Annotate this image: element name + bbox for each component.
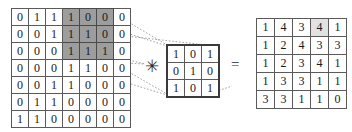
input-matrix-row: 0011000 bbox=[12, 77, 131, 94]
output-matrix-cell: 1 bbox=[257, 55, 275, 73]
input-matrix-cell: 0 bbox=[12, 9, 29, 26]
output-matrix-row: 14341 bbox=[257, 19, 347, 37]
output-matrix-row: 12433 bbox=[257, 37, 347, 55]
input-matrix-cell: 0 bbox=[80, 9, 97, 26]
input-matrix-cell: 1 bbox=[46, 94, 63, 111]
input-matrix-cell: 0 bbox=[29, 26, 46, 43]
kernel-matrix-cell: 1 bbox=[202, 80, 220, 98]
kernel-matrix-cell: 0 bbox=[167, 63, 185, 80]
kernel-matrix-cell: 0 bbox=[202, 63, 220, 80]
input-matrix-cell: 1 bbox=[80, 26, 97, 43]
output-matrix-cell: 1 bbox=[329, 55, 347, 73]
input-matrix-cell: 1 bbox=[29, 94, 46, 111]
input-matrix-cell: 0 bbox=[114, 60, 131, 77]
input-matrix-cell: 0 bbox=[12, 43, 29, 60]
input-matrix-row: 0111000 bbox=[12, 9, 131, 26]
input-matrix-cell: 0 bbox=[97, 94, 114, 111]
kernel-matrix-row: 101 bbox=[167, 80, 219, 98]
output-matrix-cell: 3 bbox=[329, 37, 347, 55]
input-matrix-cell: 1 bbox=[80, 60, 97, 77]
input-matrix-cell: 0 bbox=[46, 60, 63, 77]
input-matrix-cell: 1 bbox=[63, 9, 80, 26]
output-matrix-cell: 3 bbox=[311, 37, 329, 55]
output-matrix-cell: 1 bbox=[257, 37, 275, 55]
output-matrix-cell: 1 bbox=[329, 19, 347, 37]
output-matrix-cell: 3 bbox=[275, 73, 293, 91]
input-matrix-cell: 0 bbox=[29, 77, 46, 94]
input-matrix-cell: 0 bbox=[114, 43, 131, 60]
input-matrix-cell: 0 bbox=[12, 26, 29, 43]
kernel-matrix-cell: 1 bbox=[167, 80, 185, 98]
input-matrix-cell: 0 bbox=[80, 111, 97, 128]
input-matrix-cell: 1 bbox=[63, 77, 80, 94]
output-matrix-cell: 1 bbox=[257, 73, 275, 91]
output-matrix-cell: 1 bbox=[329, 73, 347, 91]
input-matrix-cell: 0 bbox=[29, 60, 46, 77]
kernel-matrix-cell: 1 bbox=[202, 45, 220, 63]
input-matrix-row: 0011100 bbox=[12, 26, 131, 43]
input-matrix-cell: 1 bbox=[46, 77, 63, 94]
output-matrix-row: 33110 bbox=[257, 91, 347, 109]
input-matrix-cell: 0 bbox=[29, 43, 46, 60]
input-matrix-cell: 0 bbox=[114, 94, 131, 111]
output-matrix-cell: 3 bbox=[257, 91, 275, 109]
input-matrix-cell: 0 bbox=[97, 26, 114, 43]
input-matrix-cell: 0 bbox=[114, 9, 131, 26]
kernel-matrix-cell: 1 bbox=[167, 45, 185, 63]
output-matrix-cell: 1 bbox=[257, 19, 275, 37]
input-matrix-cell: 0 bbox=[80, 77, 97, 94]
output-matrix-body: 1434112433123411331133110 bbox=[257, 19, 347, 109]
input-matrix-row: 0001100 bbox=[12, 60, 131, 77]
output-matrix-cell: 4 bbox=[311, 55, 329, 73]
input-matrix-cell: 0 bbox=[12, 60, 29, 77]
input-matrix-cell: 0 bbox=[12, 77, 29, 94]
input-matrix-cell: 0 bbox=[80, 94, 97, 111]
input-matrix-cell: 0 bbox=[114, 77, 131, 94]
input-matrix-cell: 1 bbox=[46, 9, 63, 26]
equals-operator-icon: = bbox=[231, 57, 239, 72]
input-matrix-cell: 1 bbox=[29, 9, 46, 26]
input-matrix-cell: 1 bbox=[63, 60, 80, 77]
input-matrix-row: 0001110 bbox=[12, 43, 131, 60]
input-matrix-row: 1100000 bbox=[12, 111, 131, 128]
kernel-matrix-row: 101 bbox=[167, 45, 219, 63]
output-matrix-cell: 3 bbox=[293, 19, 311, 37]
input-matrix-cell: 0 bbox=[46, 43, 63, 60]
output-matrix-cell: 1 bbox=[293, 91, 311, 109]
input-matrix-cell: 1 bbox=[80, 43, 97, 60]
input-matrix-cell: 1 bbox=[46, 26, 63, 43]
input-image-matrix: 0111000001110000011100001100001100001100… bbox=[11, 8, 131, 128]
output-matrix-cell: 3 bbox=[293, 55, 311, 73]
input-matrix-cell: 0 bbox=[97, 9, 114, 26]
kernel-matrix-row: 010 bbox=[167, 63, 219, 80]
kernel-matrix-cell: 0 bbox=[185, 45, 202, 63]
output-matrix-cell: 2 bbox=[275, 37, 293, 55]
input-matrix-cell: 0 bbox=[63, 94, 80, 111]
input-matrix-cell: 1 bbox=[97, 43, 114, 60]
input-matrix-body: 0111000001110000011100001100001100001100… bbox=[12, 9, 131, 128]
output-matrix-cell: 1 bbox=[311, 91, 329, 109]
output-matrix-cell: 1 bbox=[311, 73, 329, 91]
output-matrix-cell: 4 bbox=[275, 19, 293, 37]
input-matrix-cell: 0 bbox=[97, 60, 114, 77]
input-matrix-row: 0110000 bbox=[12, 94, 131, 111]
input-matrix-cell: 1 bbox=[12, 111, 29, 128]
input-matrix-cell: 0 bbox=[63, 111, 80, 128]
output-matrix-cell: 4 bbox=[311, 19, 329, 37]
kernel-matrix-cell: 0 bbox=[185, 80, 202, 98]
input-matrix-cell: 1 bbox=[63, 43, 80, 60]
input-matrix-cell: 1 bbox=[63, 26, 80, 43]
input-matrix-cell: 1 bbox=[29, 111, 46, 128]
output-matrix-row: 13311 bbox=[257, 73, 347, 91]
input-matrix-cell: 0 bbox=[46, 111, 63, 128]
input-matrix-cell: 0 bbox=[114, 26, 131, 43]
kernel-matrix: 101010101 bbox=[166, 44, 220, 98]
input-matrix-cell: 0 bbox=[97, 111, 114, 128]
output-matrix-row: 12341 bbox=[257, 55, 347, 73]
output-matrix-cell: 4 bbox=[293, 37, 311, 55]
input-matrix-cell: 0 bbox=[97, 77, 114, 94]
input-matrix-cell: 0 bbox=[114, 111, 131, 128]
output-matrix-cell: 3 bbox=[275, 91, 293, 109]
convolution-diagram: 0111000001110000011100001100001100001100… bbox=[0, 0, 352, 132]
output-matrix-cell: 3 bbox=[293, 73, 311, 91]
